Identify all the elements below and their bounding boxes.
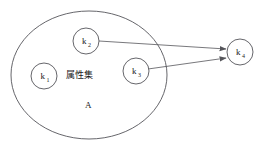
node-k4-label: k	[236, 47, 241, 57]
node-k3: k 3	[123, 58, 149, 84]
node-k3-subscript: 3	[138, 72, 141, 78]
node-k1-subscript: 1	[47, 77, 50, 83]
node-k3-label: k	[132, 66, 137, 76]
node-k2: k 2	[73, 28, 99, 54]
node-k4: k 4	[227, 39, 253, 65]
node-k2-subscript: 2	[88, 42, 91, 48]
node-k1-label: k	[41, 71, 46, 81]
node-k4-subscript: 4	[242, 53, 245, 59]
attribute-set-label: 属性集	[66, 69, 93, 80]
set-relation-diagram: k 1 k 2 k 3 k 4 属性集 A	[0, 0, 266, 150]
node-k2-label: k	[82, 36, 87, 46]
diagram-canvas: k 1 k 2 k 3 k 4 属性集 A	[0, 0, 266, 150]
edge-k3-to-k4	[148, 58, 226, 69]
edge-k2-to-k4	[99, 41, 226, 49]
node-k1: k 1	[31, 63, 57, 89]
attribute-set-letter: A	[85, 100, 92, 110]
